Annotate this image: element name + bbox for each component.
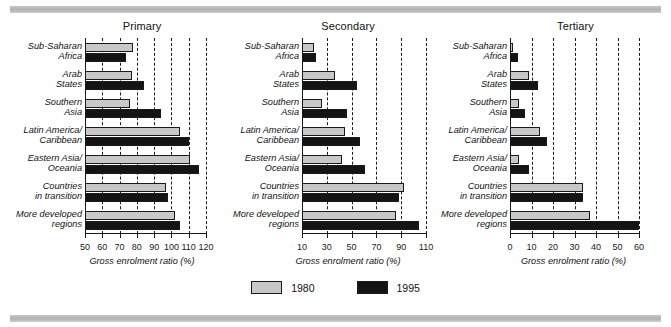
category-label: Arab States — [0, 69, 82, 89]
x-axis-tick — [401, 234, 402, 238]
category-label: More developed regions — [217, 209, 299, 229]
bar-group — [510, 206, 639, 234]
bar-1980 — [302, 71, 335, 80]
legend-item-1995: 1995 — [357, 281, 420, 294]
bottom-rule-divider — [10, 315, 661, 322]
bar-1995 — [85, 81, 144, 90]
bar-group — [510, 94, 639, 122]
x-axis-tick-label: 30 — [569, 242, 579, 252]
bar-group — [302, 150, 426, 178]
bar-1980 — [85, 183, 166, 192]
bar-1995 — [85, 165, 199, 174]
bar-1980 — [510, 211, 590, 220]
category-label: Countries in transition — [0, 181, 82, 201]
bar-1995 — [302, 81, 357, 90]
legend-item-1980: 1980 — [251, 281, 314, 294]
chart-panels-container: Primary 5060708090100110120 Gross enrolm… — [0, 18, 671, 266]
x-axis-title-secondary: Gross enrolment ratio (%) — [228, 256, 456, 266]
x-axis-tick-label: 0 — [507, 242, 512, 252]
category-label: Southern Asia — [425, 97, 507, 117]
bar-1980 — [510, 183, 583, 192]
x-axis-tick — [575, 234, 576, 238]
legend-label-1995: 1995 — [397, 282, 420, 294]
chart-panel-tertiary: Tertiary 0102030405060 Gross enrolment r… — [444, 18, 671, 266]
bar-1980 — [510, 127, 540, 136]
bar-1995 — [510, 193, 583, 202]
bar-1995 — [85, 109, 161, 118]
x-axis-tick-label: 80 — [132, 242, 142, 252]
bar-group — [85, 38, 206, 66]
panel-title-secondary: Secondary — [228, 20, 456, 32]
category-label: Latin America/ Caribbean — [217, 125, 299, 145]
bar-1995 — [302, 193, 399, 202]
x-axis-tick-label: 10 — [526, 242, 536, 252]
chart-panel-primary: Primary 5060708090100110120 Gross enrolm… — [0, 18, 228, 266]
bar-1995 — [85, 193, 168, 202]
bar-group — [510, 66, 639, 94]
bar-1995 — [510, 109, 525, 118]
bar-group — [302, 122, 426, 150]
category-label: Arab States — [217, 69, 299, 89]
bar-1995 — [510, 53, 518, 62]
category-label: Southern Asia — [0, 97, 82, 117]
x-axis-tick — [171, 234, 172, 238]
x-axis-tick — [618, 234, 619, 238]
x-axis-tick — [206, 234, 207, 238]
category-label: Eastern Asia/ Oceania — [0, 153, 82, 173]
bar-group — [85, 206, 206, 234]
bar-1995 — [510, 165, 529, 174]
bar-group — [302, 66, 426, 94]
x-axis-title-primary: Gross enrolment ratio (%) — [0, 256, 256, 266]
x-axis-tick — [510, 234, 511, 238]
bar-group — [302, 38, 426, 66]
x-axis-tick-label: 70 — [371, 242, 381, 252]
x-axis-tick-label: 60 — [634, 242, 644, 252]
bar-1980 — [302, 183, 404, 192]
bar-1980 — [85, 155, 190, 164]
panel-title-primary: Primary — [0, 20, 256, 32]
chart-legend: 1980 1995 — [0, 281, 671, 294]
top-rule-divider — [10, 6, 661, 13]
x-axis-tick — [302, 234, 303, 238]
category-label: Latin America/ Caribbean — [0, 125, 82, 145]
x-axis-tick — [376, 234, 377, 238]
bar-group — [302, 94, 426, 122]
bar-1980 — [510, 71, 529, 80]
x-axis-tick — [137, 234, 138, 238]
bar-group — [302, 178, 426, 206]
category-label: Sub-Saharan Africa — [0, 41, 82, 61]
legend-label-1980: 1980 — [291, 282, 314, 294]
plot-area-secondary: 1030507090110 — [302, 38, 426, 234]
category-label: Sub-Saharan Africa — [217, 41, 299, 61]
bar-1980 — [85, 99, 130, 108]
x-axis-tick — [120, 234, 121, 238]
panel-title-tertiary: Tertiary — [444, 20, 671, 32]
x-axis-tick-label: 40 — [591, 242, 601, 252]
bar-1980 — [85, 71, 132, 80]
x-axis-tick — [102, 234, 103, 238]
bar-1995 — [510, 221, 639, 230]
category-label: Eastern Asia/ Oceania — [217, 153, 299, 173]
bar-1980 — [85, 127, 180, 136]
x-axis-tick-label: 30 — [322, 242, 332, 252]
bar-group — [510, 122, 639, 150]
x-axis-tick-label: 20 — [548, 242, 558, 252]
x-axis-tick — [327, 234, 328, 238]
category-label: Sub-Saharan Africa — [425, 41, 507, 61]
x-axis-tick-label: 90 — [396, 242, 406, 252]
bar-group — [85, 150, 206, 178]
x-axis-tick-label: 110 — [182, 242, 196, 252]
category-label: Latin America/ Caribbean — [425, 125, 507, 145]
x-axis-tick-label: 60 — [97, 242, 107, 252]
category-label: Southern Asia — [217, 97, 299, 117]
x-axis-tick — [639, 234, 640, 238]
x-axis-tick-label: 50 — [347, 242, 357, 252]
category-label: Eastern Asia/ Oceania — [425, 153, 507, 173]
plot-area-tertiary: 0102030405060 — [510, 38, 639, 234]
bar-1995 — [302, 221, 419, 230]
bar-group — [510, 178, 639, 206]
category-label: Countries in transition — [425, 181, 507, 201]
legend-swatch-1980 — [251, 281, 282, 294]
gridline — [206, 38, 207, 234]
category-label: Countries in transition — [217, 181, 299, 201]
